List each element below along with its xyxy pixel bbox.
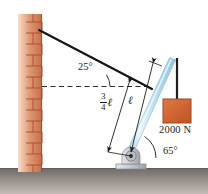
- suspended-load-block: [163, 99, 191, 123]
- fraction-numerator: 3: [100, 92, 107, 101]
- statics-boom-diagram: 25° 65° 2000 N ℓ 3 4 ℓ: [0, 0, 208, 194]
- label-load-weight: 2000 N: [159, 125, 191, 136]
- support-cable: [39, 30, 152, 89]
- angle-arc-65: [145, 137, 157, 159]
- label-boom-base-angle: 65°: [163, 146, 178, 157]
- label-boom-full-length: ℓ: [128, 95, 133, 106]
- brick-wall: [18, 14, 42, 172]
- fraction-three-quarters: 3 4: [100, 92, 107, 112]
- angle-arc-25: [107, 75, 111, 87]
- label-cable-attach-length: 3 4 ℓ: [100, 92, 112, 112]
- label-cable-angle: 25°: [78, 62, 93, 73]
- fraction-denominator: 4: [100, 103, 107, 112]
- fraction-length-unit: ℓ: [108, 97, 113, 108]
